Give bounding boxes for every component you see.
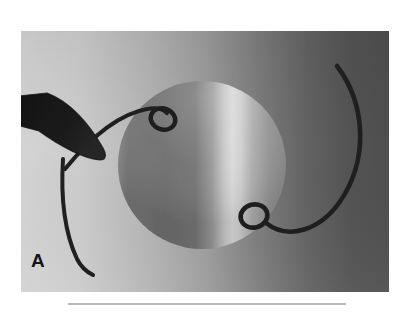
film-grain-overlay bbox=[21, 31, 389, 292]
panel-label: A bbox=[31, 251, 45, 270]
figure-panel: A bbox=[0, 0, 398, 313]
caption-separator-rule bbox=[68, 303, 346, 305]
photograph-canvas bbox=[21, 31, 389, 292]
photograph-plate bbox=[21, 31, 389, 292]
